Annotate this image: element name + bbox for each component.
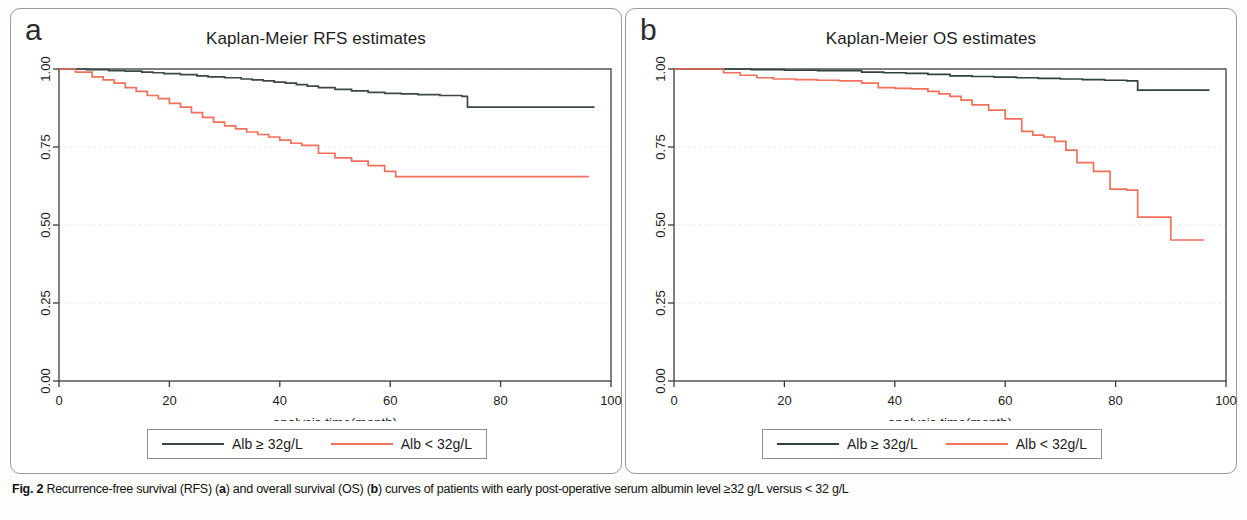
panel-b: b Kaplan-Meier OS estimates 0.000.250.50… — [625, 8, 1237, 474]
caption-ref-a: a — [219, 482, 226, 496]
svg-text:40: 40 — [888, 393, 902, 408]
svg-text:1.00: 1.00 — [653, 56, 668, 81]
panel-a-legend: Alb ≥ 32g/L Alb < 32g/L — [147, 429, 487, 459]
legend-swatch-high-albumin — [162, 443, 224, 445]
svg-text:0.00: 0.00 — [653, 368, 668, 393]
os-plot: 0.000.250.500.751.00020406080100analysis… — [626, 51, 1238, 421]
svg-text:0.25: 0.25 — [38, 290, 53, 315]
svg-text:0.75: 0.75 — [653, 134, 668, 159]
svg-text:100: 100 — [600, 393, 622, 408]
svg-text:0.00: 0.00 — [38, 368, 53, 393]
figure-container: a Kaplan-Meier RFS estimates 0.000.250.5… — [0, 0, 1247, 520]
legend-label-high-albumin: Alb ≥ 32g/L — [232, 436, 303, 452]
legend-swatch-low-albumin — [331, 443, 393, 445]
svg-text:0.75: 0.75 — [38, 134, 53, 159]
svg-text:100: 100 — [1215, 393, 1237, 408]
svg-text:1.00: 1.00 — [38, 56, 53, 81]
legend-swatch-low-albumin — [946, 443, 1008, 445]
svg-text:80: 80 — [493, 393, 507, 408]
legend-label-high-albumin: Alb ≥ 32g/L — [847, 436, 918, 452]
rfs-plot: 0.000.250.500.751.00020406080100analysis… — [11, 51, 623, 421]
svg-text:analysis time(month): analysis time(month) — [888, 415, 1013, 421]
legend-entry-high-albumin: Alb ≥ 32g/L — [162, 436, 303, 452]
svg-text:0: 0 — [670, 393, 677, 408]
legend-label-low-albumin: Alb < 32g/L — [401, 436, 472, 452]
svg-text:0: 0 — [55, 393, 62, 408]
legend-entry-low-albumin: Alb < 32g/L — [946, 436, 1087, 452]
panel-a: a Kaplan-Meier RFS estimates 0.000.250.5… — [10, 8, 622, 474]
caption-ref-b: b — [371, 482, 378, 496]
svg-text:20: 20 — [162, 393, 176, 408]
svg-text:60: 60 — [383, 393, 397, 408]
legend-entry-low-albumin: Alb < 32g/L — [331, 436, 472, 452]
svg-text:40: 40 — [273, 393, 287, 408]
panel-a-title: Kaplan-Meier RFS estimates — [11, 29, 621, 49]
figure-caption: Fig. 2 Recurrence-free survival (RFS) (a… — [12, 482, 1235, 498]
caption-figure-number: Fig. 2 — [12, 482, 43, 496]
caption-text-3: ) curves of patients with early post-ope… — [378, 482, 849, 496]
caption-text-1: Recurrence-free survival (RFS) ( — [43, 482, 219, 496]
legend-entry-high-albumin: Alb ≥ 32g/L — [777, 436, 918, 452]
legend-swatch-high-albumin — [777, 443, 839, 445]
svg-text:0.25: 0.25 — [653, 290, 668, 315]
svg-text:60: 60 — [998, 393, 1012, 408]
svg-text:20: 20 — [777, 393, 791, 408]
svg-text:analysis time(month): analysis time(month) — [273, 415, 398, 421]
panel-b-title: Kaplan-Meier OS estimates — [626, 29, 1236, 49]
caption-text-2: ) and overall survival (OS) ( — [226, 482, 371, 496]
svg-text:0.50: 0.50 — [653, 212, 668, 237]
svg-text:80: 80 — [1108, 393, 1122, 408]
panel-b-legend: Alb ≥ 32g/L Alb < 32g/L — [762, 429, 1102, 459]
svg-text:0.50: 0.50 — [38, 212, 53, 237]
legend-label-low-albumin: Alb < 32g/L — [1016, 436, 1087, 452]
